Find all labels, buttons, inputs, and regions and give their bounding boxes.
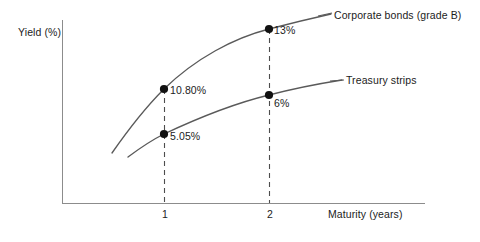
data-label-treasury-year1: 5.05%: [170, 131, 200, 142]
leader-line-treasury: [330, 80, 344, 81]
curve-treasury-strips: [128, 80, 342, 157]
marker-corporate-year1: [160, 85, 168, 93]
data-label-corporate-year2: 13%: [274, 25, 295, 36]
x-axis-title: Maturity (years): [328, 209, 403, 220]
series-label-treasury-strips: Treasury strips: [346, 75, 417, 86]
data-label-corporate-year1: 10.80%: [170, 85, 206, 96]
marker-treasury-year2: [265, 91, 273, 99]
yield-curve-figure: Yield (%) Maturity (years) 1 2 10.80% 13…: [0, 0, 480, 242]
chart-canvas: [0, 0, 480, 242]
series-label-corporate-bonds: Corporate bonds (grade B): [334, 10, 461, 21]
curve-corporate-bonds: [112, 14, 331, 153]
y-axis-title: Yield (%): [18, 27, 61, 38]
marker-treasury-year1: [160, 130, 168, 138]
x-tick-label-2: 2: [264, 209, 276, 220]
x-tick-label-1: 1: [159, 209, 171, 220]
marker-corporate-year2: [265, 25, 273, 33]
data-label-treasury-year2: 6%: [274, 98, 289, 109]
